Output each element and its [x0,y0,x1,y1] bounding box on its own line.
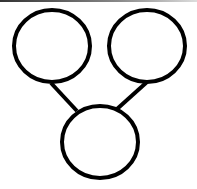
tree-diagram [0,0,197,189]
node-bottom [62,106,138,178]
node-right [109,10,185,82]
node-left [14,10,90,82]
edge-left-bottom [51,83,77,111]
edge-right-bottom [117,82,147,109]
